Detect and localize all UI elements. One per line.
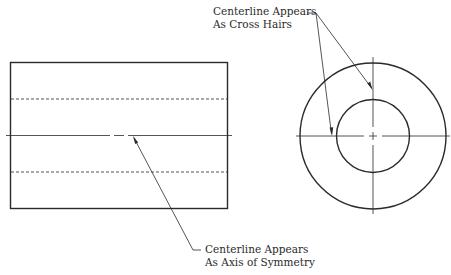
arrowhead-icon <box>367 81 372 90</box>
top-annotation: Centerline Appears As Cross Hairs <box>213 5 316 31</box>
bottom-annotation-line1: Centerline Appears <box>205 243 315 256</box>
top-annotation-line2: As Cross Hairs <box>213 18 316 31</box>
arrowhead-icon <box>133 136 138 144</box>
bottom-leader-diagonal <box>134 138 193 250</box>
front-view <box>6 63 232 209</box>
bottom-leader <box>133 136 201 250</box>
bottom-annotation-line2: As Axis of Symmetry <box>205 256 315 269</box>
top-leader <box>307 13 373 136</box>
arrowhead-icon <box>330 127 334 136</box>
technical-drawing <box>0 0 451 275</box>
top-annotation-line1: Centerline Appears <box>213 5 316 18</box>
end-view <box>296 57 450 214</box>
bottom-annotation: Centerline Appears As Axis of Symmetry <box>205 243 315 269</box>
